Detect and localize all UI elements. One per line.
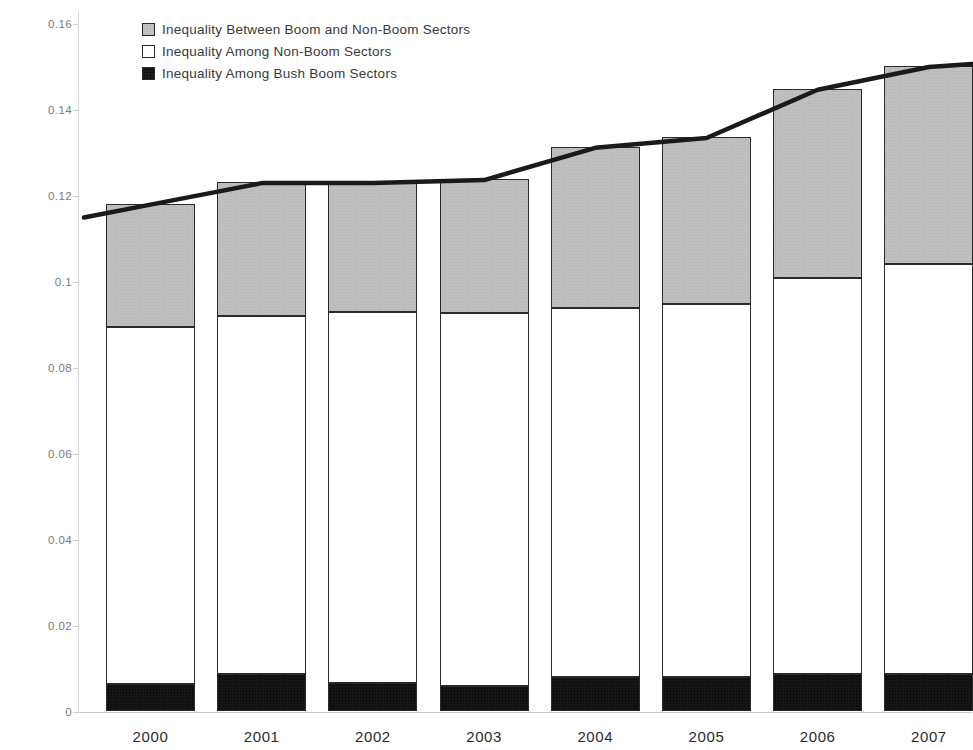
bar-group[interactable]: [328, 11, 417, 712]
y-axis-line: [78, 12, 79, 713]
y-axis-tick-mark: [73, 454, 78, 455]
y-axis-tick-label: 0.16: [48, 18, 72, 30]
bar-segment-among-bush-boom[interactable]: [328, 683, 417, 711]
legend-item-label: Inequality Among Non-Boom Sectors: [162, 44, 392, 59]
bar-segment-between-boom-and-non-boom[interactable]: [662, 137, 751, 304]
legend-swatch-white-icon: [142, 45, 155, 58]
x-axis-line: [78, 712, 972, 713]
bar-segment-between-boom-and-non-boom[interactable]: [884, 66, 973, 264]
y-axis-tick-mark: [73, 196, 78, 197]
bar-segment-between-boom-and-non-boom[interactable]: [217, 182, 306, 316]
y-axis-tick-label: 0.04: [48, 534, 72, 546]
y-axis-tick-labels: 00.020.040.060.080.10.120.140.16: [30, 12, 72, 713]
y-axis-tick-label: 0.06: [48, 448, 72, 460]
bar-segment-among-bush-boom[interactable]: [106, 684, 195, 711]
bar-segment-among-non-boom[interactable]: [106, 327, 195, 685]
y-axis-tick-mark: [73, 282, 78, 283]
y-axis-tick-mark: [73, 368, 78, 369]
bar-segment-between-boom-and-non-boom[interactable]: [328, 182, 417, 312]
legend-item[interactable]: Inequality Between Boom and Non-Boom Sec…: [142, 22, 470, 37]
bar-segment-among-bush-boom[interactable]: [884, 674, 973, 711]
bar-segment-among-non-boom[interactable]: [773, 278, 862, 675]
x-axis-tick-label: 2001: [244, 728, 280, 745]
bar-segment-among-non-boom[interactable]: [551, 308, 640, 677]
bar-group[interactable]: [884, 11, 973, 712]
y-axis-tick-label: 0: [65, 706, 72, 718]
legend-swatch-black-icon: [142, 67, 155, 80]
x-axis-tick-label: 2003: [466, 728, 502, 745]
x-axis-tick-label: 2002: [355, 728, 391, 745]
bar-segment-among-non-boom[interactable]: [662, 304, 751, 677]
y-axis-tick-label: 0.08: [48, 362, 72, 374]
legend-item[interactable]: Inequality Among Non-Boom Sectors: [142, 44, 470, 59]
bar-segment-between-boom-and-non-boom[interactable]: [773, 89, 862, 278]
y-axis-tick-label: 0.14: [48, 104, 72, 116]
bar-segment-between-boom-and-non-boom[interactable]: [440, 179, 529, 313]
x-axis-tick-label: 2005: [689, 728, 725, 745]
y-axis-tick-label: 0.12: [48, 190, 72, 202]
bar-segment-among-bush-boom[interactable]: [551, 677, 640, 711]
bar-group[interactable]: [662, 11, 751, 712]
bar-segment-among-bush-boom[interactable]: [662, 677, 751, 711]
x-axis-tick-label: 2006: [800, 728, 836, 745]
bar-segment-among-non-boom[interactable]: [217, 316, 306, 675]
bar-group[interactable]: [551, 11, 640, 712]
bar-group[interactable]: [440, 11, 529, 712]
legend-item-label: Inequality Between Boom and Non-Boom Sec…: [162, 22, 470, 37]
x-axis-tick-label: 2007: [911, 728, 947, 745]
y-axis-tick-mark: [73, 712, 78, 713]
y-axis-tick-mark: [73, 540, 78, 541]
bar-segment-among-non-boom[interactable]: [328, 312, 417, 684]
legend-item-label: Inequality Among Bush Boom Sectors: [162, 66, 397, 81]
bar-segment-between-boom-and-non-boom[interactable]: [551, 147, 640, 308]
bar-segment-among-bush-boom[interactable]: [217, 674, 306, 711]
chart-legend: Inequality Between Boom and Non-Boom Sec…: [142, 22, 470, 81]
y-axis-tick-mark: [73, 110, 78, 111]
plot-area: 20002001200220032004200520062007: [78, 12, 972, 713]
bar-segment-among-bush-boom[interactable]: [440, 686, 529, 711]
legend-swatch-gray-icon: [142, 23, 155, 36]
y-axis-tick-mark: [73, 24, 78, 25]
y-axis-tick-label: 0.1: [55, 276, 72, 288]
bar-group[interactable]: [106, 11, 195, 712]
y-axis-tick-mark: [73, 626, 78, 627]
bar-segment-among-non-boom[interactable]: [440, 313, 529, 686]
bar-segment-among-non-boom[interactable]: [884, 264, 973, 675]
bar-group[interactable]: [217, 11, 306, 712]
x-axis-tick-label: 2004: [577, 728, 613, 745]
y-axis-tick-label: 0.02: [48, 620, 72, 632]
x-axis-tick-label: 2000: [133, 728, 169, 745]
bar-group[interactable]: [773, 11, 862, 712]
bar-segment-among-bush-boom[interactable]: [773, 674, 862, 711]
legend-item[interactable]: Inequality Among Bush Boom Sectors: [142, 66, 470, 81]
bar-segment-between-boom-and-non-boom[interactable]: [106, 204, 195, 327]
